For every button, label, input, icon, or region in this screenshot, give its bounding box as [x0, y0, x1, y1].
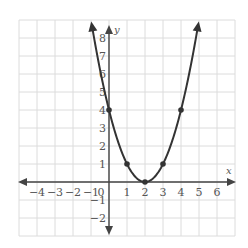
x-tick-label: 6: [214, 186, 221, 199]
y-tick-label: 1: [99, 158, 106, 171]
x-tick-label: 2: [142, 186, 149, 199]
x-tick-label: 1: [124, 186, 131, 199]
y-tick-label: 7: [99, 50, 106, 63]
curve-arrow-icon: [193, 21, 202, 32]
x-tick-label: 5: [196, 186, 203, 199]
y-tick-label: 3: [99, 122, 106, 135]
y-tick-label: 4: [99, 104, 106, 117]
data-point: [142, 179, 148, 185]
x-tick-label: −3: [47, 186, 63, 199]
y-axis-label: y: [113, 24, 120, 35]
y-tick-label: 2: [99, 140, 106, 153]
data-point: [106, 107, 112, 113]
x-tick-label: 4: [178, 186, 185, 199]
y-tick-label: 8: [99, 32, 106, 45]
y-tick-label: −2: [90, 212, 106, 225]
x-tick-label: −2: [65, 186, 81, 199]
x-tick-label: −4: [29, 186, 45, 199]
y-axis-up-arrow-icon: [105, 25, 113, 34]
x-tick-label: 3: [160, 186, 167, 199]
x-axis-label: x: [226, 165, 232, 176]
parabola-chart: −4−3−2−10123456−2−112345678 x y: [0, 0, 248, 248]
curve-arrow-icon: [88, 21, 97, 32]
y-tick-label: −1: [90, 194, 106, 207]
data-point: [178, 107, 184, 113]
grid: [19, 20, 235, 236]
data-point: [160, 161, 166, 167]
y-axis-down-arrow-icon: [105, 226, 113, 235]
data-point: [124, 161, 130, 167]
